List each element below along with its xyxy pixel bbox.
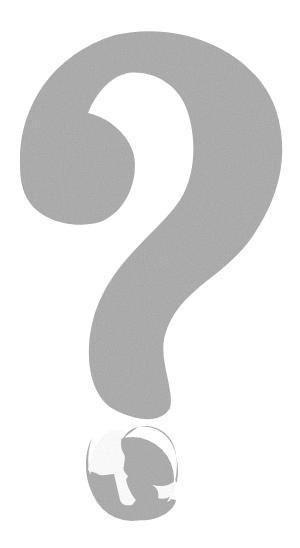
illustration [0,0,300,548]
reader-globe-icon [86,426,178,521]
question-mark-icon [20,31,282,419]
